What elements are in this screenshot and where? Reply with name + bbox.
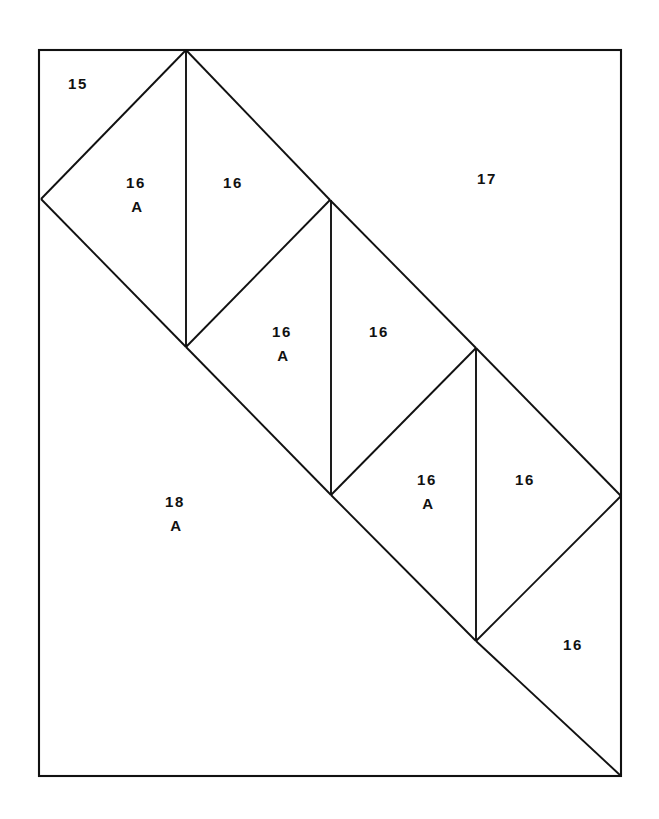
- diag-d2bottom-left: [186, 347, 331, 495]
- label-16a-third-number: 16: [417, 471, 437, 488]
- diag-left-to-d1bottom: [41, 199, 186, 347]
- label-16a-first: 16A: [126, 174, 146, 215]
- label-17: 17: [477, 170, 497, 187]
- label-16-second: 16: [369, 323, 389, 340]
- diag-d1right-to-d2bottom: [186, 200, 330, 347]
- figure-container: 1516A161716A1618A16A1616: [0, 0, 659, 819]
- label-18a: 18A: [165, 493, 185, 534]
- main-diagonal-lower: [476, 641, 621, 776]
- label-16-third: 16: [515, 471, 535, 488]
- label-15: 15: [68, 75, 88, 92]
- label-16a-third: 16A: [417, 471, 437, 512]
- diagram-line-group: [41, 50, 621, 776]
- label-17-number: 17: [477, 170, 497, 187]
- label-16a-first-suffix: A: [131, 198, 142, 215]
- label-16a-second: 16A: [272, 323, 292, 364]
- label-15-number: 15: [68, 75, 88, 92]
- diag-d3right-to-d3bottom: [476, 496, 621, 641]
- label-18a-number: 18: [165, 493, 185, 510]
- label-16a-second-suffix: A: [277, 347, 288, 364]
- label-16-first-number: 16: [223, 174, 243, 191]
- diag-d1right-to-d2right: [330, 200, 476, 348]
- label-16-second-number: 16: [369, 323, 389, 340]
- reference-numeral-group: 1516A161716A1618A16A1616: [68, 75, 583, 653]
- technical-drawing-canvas: 1516A161716A1618A16A1616: [0, 0, 659, 819]
- label-16-third-number: 16: [515, 471, 535, 488]
- diag-d2right-to-d3bottom: [331, 348, 476, 495]
- diag-d3bottom-left: [331, 495, 476, 641]
- diag-apex-to-d1right: [186, 50, 330, 200]
- label-16-first: 16: [223, 174, 243, 191]
- label-18a-suffix: A: [170, 517, 181, 534]
- label-16-fourth-number: 16: [563, 636, 583, 653]
- label-16a-second-number: 16: [272, 323, 292, 340]
- label-16-fourth: 16: [563, 636, 583, 653]
- diag-d2right-to-d3right: [476, 348, 621, 496]
- outer-border-rectangle: [39, 50, 621, 776]
- label-16a-first-number: 16: [126, 174, 146, 191]
- diag-apex-to-left: [41, 50, 186, 199]
- label-16a-third-suffix: A: [422, 495, 433, 512]
